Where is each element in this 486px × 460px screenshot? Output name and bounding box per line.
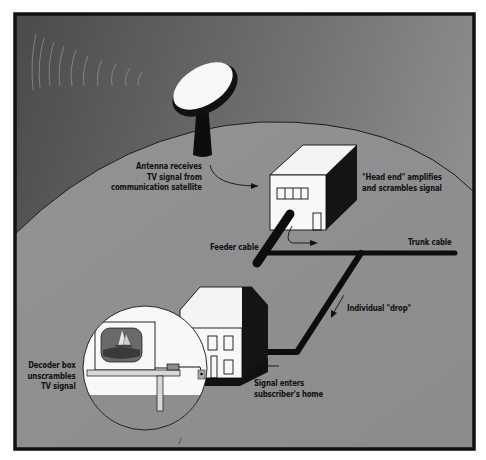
feeder-cable-label: Feeder cable: [210, 242, 258, 253]
antenna-label: Antenna receives TV signal from communic…: [111, 161, 202, 193]
trunk-cable-label: Trunk cable: [408, 237, 452, 248]
decoder-box-icon: [167, 364, 179, 370]
individual-drop-label: Individual "drop": [347, 303, 411, 314]
signal-enters-label: Signal enters subscriber's home: [254, 378, 323, 399]
head-end-label: "Head end" amplifies and scrambles signa…: [362, 172, 442, 193]
diagram-frame: Antenna receives TV signal from communic…: [0, 0, 486, 460]
decoder-box-label: Decoder box unscrambles TV signal: [28, 360, 76, 392]
